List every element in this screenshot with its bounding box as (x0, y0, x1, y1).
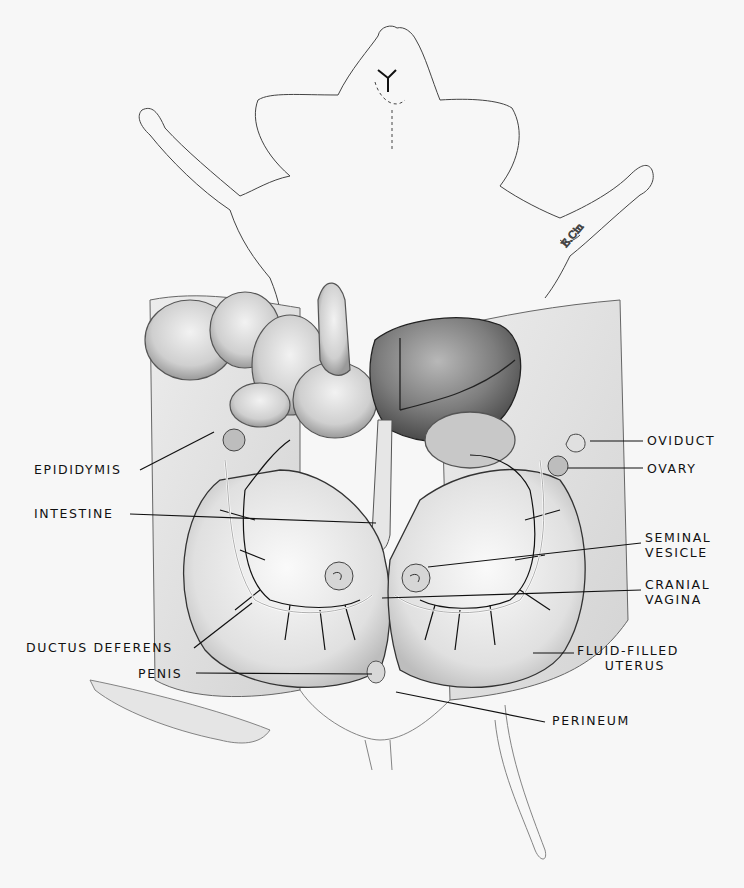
hindquarters-outline (90, 680, 546, 859)
mouse-illustration: E.Cin (0, 0, 744, 888)
ovary-right (548, 456, 568, 476)
label-penis: PENIS (138, 666, 182, 681)
label-ductus-deferens: DUCTUS DEFERENS (26, 640, 173, 655)
head-and-forelimbs-outline: E.Cin (139, 26, 653, 310)
label-seminal-vesicle: SEMINAL VESICLE (645, 530, 711, 560)
label-epididymis: EPIDIDYMIS (34, 462, 121, 477)
epididymis-gonad-left (223, 429, 245, 451)
artist-signature: E.Cin (559, 221, 586, 250)
liver (370, 318, 521, 468)
label-intestine: INTESTINE (34, 506, 113, 521)
label-ovary: OVARY (647, 461, 696, 476)
label-fluid-filled-uterus: FLUID-FILLED UTERUS (577, 643, 679, 673)
penis-shape (367, 661, 385, 683)
mouse-anatomy-diagram: E.Cin (0, 0, 744, 888)
label-perineum: PERINEUM (552, 713, 630, 728)
label-cranial-vagina: CRANIAL VAGINA (645, 577, 710, 607)
label-oviduct: OVIDUCT (647, 433, 715, 448)
